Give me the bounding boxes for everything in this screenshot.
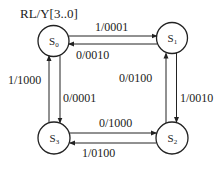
state-s3: S3 — [38, 122, 70, 154]
transition-s2-s3: 1/0100 — [70, 143, 156, 160]
svg-text:1/1000: 1/1000 — [8, 73, 41, 87]
transition-s3-s0: 1/1000 — [8, 56, 49, 123]
svg-text:1/0100: 1/0100 — [82, 146, 115, 160]
svg-text:0/0010: 0/0010 — [76, 48, 109, 62]
svg-text:0/1000: 0/1000 — [99, 116, 132, 130]
svg-text:1/0010: 1/0010 — [180, 91, 213, 105]
svg-text:0/0001: 0/0001 — [63, 91, 96, 105]
svg-text:1/0001: 1/0001 — [95, 20, 128, 34]
state-s2: S2 — [156, 122, 188, 154]
svg-text:0/0100: 0/0100 — [119, 71, 152, 85]
transition-s0-s1: 1/0001 — [69, 20, 157, 36]
transition-s2-s1: 0/0100 — [119, 54, 166, 124]
transition-s3-s2: 0/1000 — [70, 116, 156, 133]
state-s0: S0 — [38, 26, 69, 57]
state-diagram: RL/Y[3..0] S0 S1 S2 S3 1/0001 0/0010 1/0… — [0, 0, 219, 172]
transition-s0-s3: 0/0001 — [60, 56, 96, 123]
state-s1: S1 — [157, 23, 188, 54]
diagram-header: RL/Y[3..0] — [20, 6, 78, 21]
transition-s1-s0: 0/0010 — [69, 44, 157, 62]
transition-s1-s2: 1/0010 — [177, 53, 214, 122]
